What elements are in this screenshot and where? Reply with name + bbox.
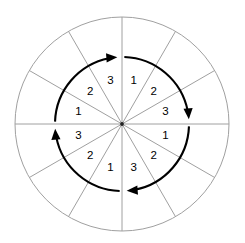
sector-label-lower-left-3: 3 xyxy=(75,129,81,141)
center-point-group xyxy=(120,122,124,126)
center-point xyxy=(120,122,124,126)
sector-label-upper-right-2: 2 xyxy=(151,85,157,97)
sector-label-upper-left-2: 2 xyxy=(87,85,93,97)
sector-label-upper-right-3: 3 xyxy=(162,105,168,117)
sector-label-upper-left-1: 1 xyxy=(75,105,81,117)
sector-label-lower-left-1: 1 xyxy=(107,161,113,173)
figure-canvas: 123123123123 xyxy=(0,0,245,243)
sector-label-lower-right-2: 2 xyxy=(151,149,157,161)
sector-circle-diagram: 123123123123 xyxy=(0,0,245,243)
sector-label-lower-right-3: 3 xyxy=(130,161,136,173)
sector-label-upper-right-1: 1 xyxy=(130,74,136,86)
sector-label-upper-left-3: 3 xyxy=(107,74,113,86)
sector-label-lower-left-2: 2 xyxy=(87,149,93,161)
sector-label-lower-right-1: 1 xyxy=(162,129,168,141)
